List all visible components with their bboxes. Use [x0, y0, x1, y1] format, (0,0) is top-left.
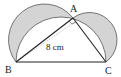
lune-ac-shaded: [73, 13, 117, 63]
label-b: B: [5, 64, 12, 75]
label-a: A: [70, 3, 78, 14]
lune-ab-shaded: [9, 4, 73, 62]
lune-diagram: A B C 8 cm: [0, 0, 121, 77]
label-c: C: [105, 65, 112, 76]
measurement-label: 8 cm: [46, 42, 64, 52]
